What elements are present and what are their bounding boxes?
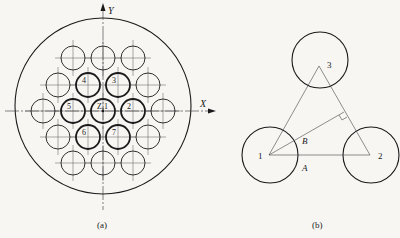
right-angle-marker [339,115,347,120]
node-label-1: 1 [258,151,263,161]
y-axis-label: Y [108,5,115,16]
origin-dot [102,110,105,113]
tube-label: 3 [112,76,116,85]
figure-canvas: Y X 435Z,1267 (a) 3 1 2 B A (b) [0,0,400,238]
y-axis-arrow-icon [101,3,106,11]
tube [145,93,181,129]
perpendicular-B [269,112,344,155]
segment-label-A: A [301,163,308,173]
node-label-3: 3 [327,60,332,70]
caption-b: (b) [312,220,323,230]
tube-label: Z,1 [97,102,108,111]
tube [130,119,166,155]
tube-label: 2 [127,102,131,111]
tube [115,40,151,76]
tube-label: 4 [82,76,86,85]
caption-a: (a) [97,220,107,230]
x-axis-arrow-icon [208,109,216,114]
tube-group: 435Z,1267 [25,40,181,181]
edge-3-2 [319,66,370,155]
tube [115,145,151,181]
tube-layout-diagram: Y X 435Z,1267 (a) [5,3,216,230]
tube [130,67,166,103]
tube-circle-3 [292,32,348,88]
tube-triangle-diagram: 3 1 2 B A (b) [242,32,399,230]
x-axis-label: X [199,98,207,109]
tube-label: 6 [82,128,86,137]
segment-label-B: B [302,136,308,146]
tube-label: 7 [112,128,116,137]
node-label-2: 2 [378,151,383,161]
tube-label: 5 [67,102,71,111]
